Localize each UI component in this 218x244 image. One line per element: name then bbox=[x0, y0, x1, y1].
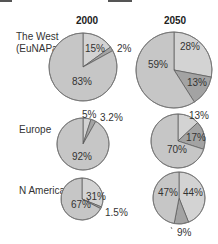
label-namerica-2000-1.5: 1.5% bbox=[105, 207, 128, 218]
label-west-2000-2: 2% bbox=[117, 43, 132, 54]
label-europe-2050-70: 70% bbox=[167, 144, 187, 155]
label-europe-2050-17: 17% bbox=[186, 132, 206, 143]
label-namerica-2050-44: 44% bbox=[183, 187, 203, 198]
pie-charts: 15% 2% 83% 28% 13% 59% 5% 3.2% 92% 13% 1… bbox=[0, 0, 218, 244]
label-europe-2000-3.2: 3.2% bbox=[100, 112, 123, 123]
leader-tick-9 bbox=[171, 227, 172, 229]
label-west-2000-83: 83% bbox=[72, 76, 92, 87]
label-west-2050-13: 13% bbox=[187, 77, 207, 88]
pie-slice bbox=[174, 32, 212, 77]
label-europe-2000-92: 92% bbox=[72, 151, 92, 162]
label-west-2050-28: 28% bbox=[180, 41, 200, 52]
label-namerica-2050-9: 9% bbox=[177, 227, 192, 238]
label-namerica-2050-47: 47% bbox=[158, 187, 178, 198]
label-europe-2000-5: 5% bbox=[82, 109, 97, 120]
label-west-2000-15: 15% bbox=[85, 43, 105, 54]
label-europe-2050-13: 13% bbox=[189, 110, 209, 121]
label-west-2050-59: 59% bbox=[148, 59, 168, 70]
label-namerica-2000-67: 67% bbox=[71, 199, 91, 210]
